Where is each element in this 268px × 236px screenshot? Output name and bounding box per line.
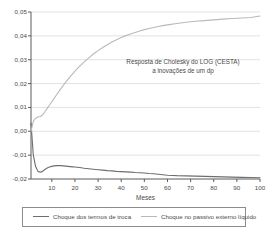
x-tick-label: 50 <box>134 184 154 191</box>
legend-swatch-icon-external-liabilities <box>141 216 157 217</box>
impulse-response-chart: 0,050,040,030,020,010,00-0,01-0,02 10203… <box>0 0 268 236</box>
y-tick-label: 0,04 <box>0 32 27 39</box>
y-tick-label: 0,01 <box>0 103 27 110</box>
y-tick-label: 0,02 <box>0 80 27 87</box>
y-tick-label: -0,01 <box>0 151 27 158</box>
legend-label-external-liabilities: Choque no passivo externo líquido <box>161 213 256 220</box>
chart-legend: Choque dos termos de troca Choque no pas… <box>22 207 246 227</box>
axis-tick-marks <box>28 12 260 182</box>
annotation-line-2: a inovações de um dp <box>108 66 258 75</box>
chart-annotation: Resposta de Cholesky do LOG (CESTA) a in… <box>108 57 258 75</box>
legend-swatch-icon-terms-of-trade <box>33 216 49 217</box>
y-tick-label: 0,03 <box>0 56 27 63</box>
annotation-line-1: Resposta de Cholesky do LOG (CESTA) <box>108 57 258 66</box>
x-tick-label: 80 <box>204 184 224 191</box>
gridlines <box>31 12 260 155</box>
y-tick-label: 0,00 <box>0 127 27 134</box>
x-tick-label: 100 <box>250 184 268 191</box>
x-tick-label: 30 <box>88 184 108 191</box>
legend-label-terms-of-trade: Choque dos termos de troca <box>53 213 131 220</box>
x-tick-label: 60 <box>157 184 177 191</box>
y-tick-label: 0,05 <box>0 8 27 15</box>
x-tick-label: 20 <box>65 184 85 191</box>
x-tick-label: 70 <box>181 184 201 191</box>
x-tick-label: 40 <box>111 184 131 191</box>
x-axis-title: Meses <box>106 194 186 201</box>
y-tick-label: -0,02 <box>0 175 27 182</box>
x-tick-label: 10 <box>42 184 62 191</box>
legend-item-terms-of-trade: Choque dos termos de troca <box>33 213 131 220</box>
x-tick-label: 90 <box>227 184 247 191</box>
legend-item-external-liabilities: Choque no passivo externo líquido <box>141 213 256 220</box>
